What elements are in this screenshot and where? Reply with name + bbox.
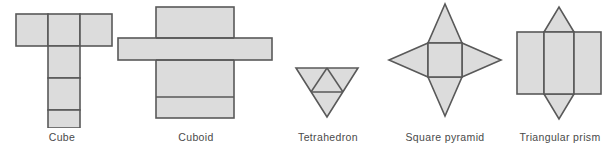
caption-triangular-prism: Triangular prism xyxy=(508,131,612,143)
square-pyramid-net-diagram xyxy=(385,0,505,122)
triangular-prism-net-diagram xyxy=(508,0,612,122)
cube-net-diagram xyxy=(6,0,118,128)
nets-figure: Cube Cuboid Tet xyxy=(0,0,616,153)
net-tetrahedron: Tetrahedron xyxy=(288,0,368,153)
triangular-prism-triangle-top xyxy=(544,7,574,32)
triangular-prism-rect-right xyxy=(574,32,601,94)
net-cube: Cube xyxy=(6,0,118,153)
triangular-prism-triangle-bottom xyxy=(544,94,574,119)
caption-square-pyramid: Square pyramid xyxy=(385,131,505,143)
caption-cube: Cube xyxy=(6,131,118,143)
cube-face-column-3 xyxy=(48,110,80,128)
triangular-prism-rect-middle xyxy=(544,32,574,94)
cube-face-top-middle xyxy=(48,14,80,46)
net-cuboid: Cuboid xyxy=(115,0,277,153)
square-pyramid-triangle-left xyxy=(389,43,428,77)
net-triangular-prism: Triangular prism xyxy=(508,0,612,153)
cuboid-net-diagram xyxy=(115,0,277,126)
square-pyramid-triangle-bottom xyxy=(428,77,462,116)
figure-baseline xyxy=(0,152,616,153)
square-pyramid-base-square xyxy=(428,43,462,77)
tetrahedron-net-diagram xyxy=(288,0,368,120)
caption-cuboid: Cuboid xyxy=(115,131,277,143)
net-square-pyramid: Square pyramid xyxy=(385,0,505,153)
square-pyramid-triangle-right xyxy=(462,43,501,77)
square-pyramid-triangle-top xyxy=(428,4,462,43)
cube-face-column-1 xyxy=(48,46,80,78)
triangular-prism-rect-left xyxy=(517,32,544,94)
cube-face-top-right xyxy=(80,14,112,46)
cuboid-face-horizontal-strip xyxy=(118,38,272,60)
cube-face-top-left xyxy=(16,14,48,46)
cuboid-face-vertical-strip xyxy=(156,7,234,118)
cube-face-column-2 xyxy=(48,78,80,110)
caption-tetrahedron: Tetrahedron xyxy=(288,131,368,143)
